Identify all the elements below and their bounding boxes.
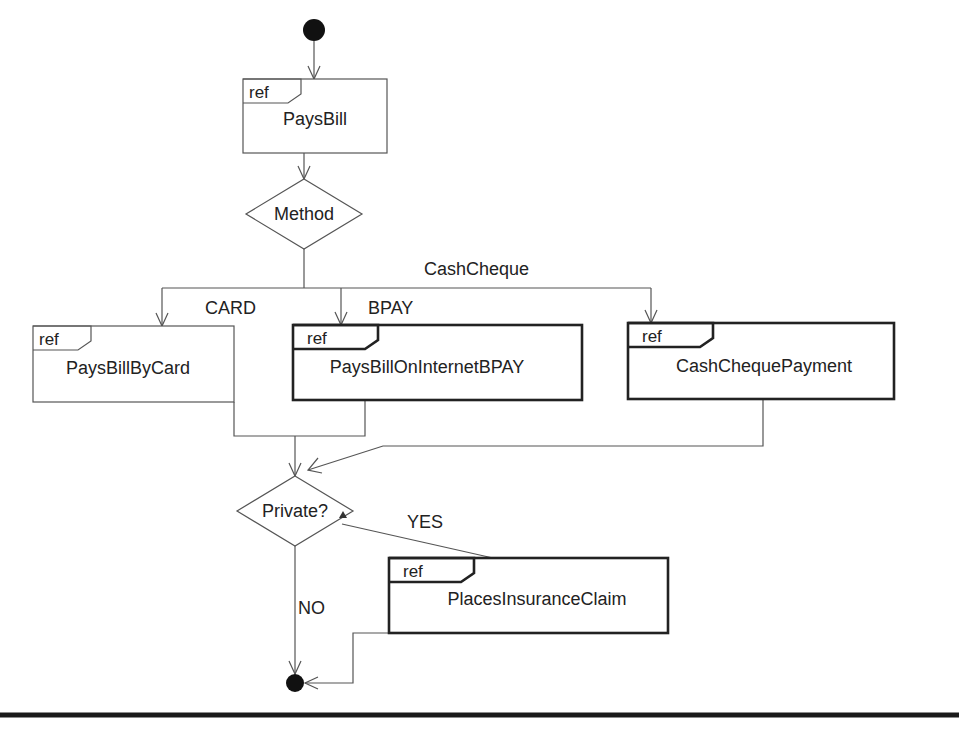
ref-keyword: ref — [39, 330, 59, 349]
decision-label: Method — [274, 204, 334, 224]
activity-bpay[interactable]: refPaysBillOnInternetBPAY — [293, 325, 582, 400]
control-flow-edge — [305, 633, 389, 683]
activity-cash[interactable]: refCashChequePayment — [628, 323, 894, 399]
ref-keyword: ref — [642, 327, 662, 346]
initial-node-icon — [303, 19, 325, 41]
control-flow-edge — [234, 400, 365, 436]
guard-label-yes: YES — [407, 512, 443, 532]
activity-card[interactable]: refPaysBillByCard — [33, 326, 234, 402]
activity-label: PlacesInsuranceClaim — [447, 589, 626, 609]
activity-paysbill[interactable]: refPaysBill — [243, 79, 387, 153]
activity-label: PaysBillOnInternetBPAY — [330, 357, 524, 377]
ref-keyword: ref — [403, 562, 423, 581]
decision-method[interactable]: Method — [246, 179, 362, 249]
guard-label-no: NO — [298, 598, 325, 618]
guard-label-bpay: BPAY — [368, 298, 413, 318]
bottom-divider — [0, 713, 959, 718]
arrowhead-icon — [308, 458, 322, 473]
ref-keyword: ref — [307, 329, 327, 348]
activity-diagram: refPaysBillrefPaysBillByCardrefPaysBillO… — [0, 0, 959, 732]
decision-private[interactable]: Private? — [237, 476, 353, 546]
activity-label: CashChequePayment — [676, 356, 852, 376]
control-flow-edge — [308, 399, 763, 470]
diagram-nodes: refPaysBillrefPaysBillByCardrefPaysBillO… — [33, 19, 894, 692]
ref-keyword: ref — [249, 83, 269, 102]
activity-insurance[interactable]: refPlacesInsuranceClaim — [389, 558, 668, 633]
activity-label: PaysBillByCard — [66, 358, 190, 378]
final-node-icon — [286, 674, 304, 692]
decision-label: Private? — [262, 501, 328, 521]
guard-label-card: CARD — [205, 298, 256, 318]
guard-label-cashcheque: CashCheque — [424, 259, 529, 279]
activity-label: PaysBill — [283, 109, 347, 129]
